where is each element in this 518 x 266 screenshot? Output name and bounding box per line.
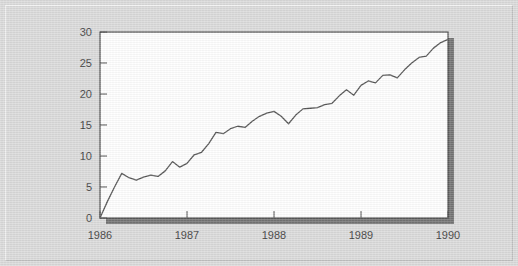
x-tick-label: 1989 xyxy=(349,229,373,241)
plot-background xyxy=(100,32,448,218)
y-tick-label: 15 xyxy=(80,119,92,131)
y-tick-label: 30 xyxy=(80,26,92,38)
x-axis-tick-labels: 19861987198819891990 xyxy=(88,229,460,241)
y-tick-label: 0 xyxy=(86,212,92,224)
y-tick-label: 25 xyxy=(80,57,92,69)
y-tick-label: 5 xyxy=(86,181,92,193)
x-tick-label: 1988 xyxy=(262,229,286,241)
y-axis-tick-labels: 051015202530 xyxy=(80,26,92,224)
y-tick-label: 20 xyxy=(80,88,92,100)
x-tick-label: 1987 xyxy=(175,229,199,241)
y-tick-label: 10 xyxy=(80,150,92,162)
line-chart: 051015202530 19861987198819891990 xyxy=(0,0,518,266)
x-tick-label: 1986 xyxy=(88,229,112,241)
chart-figure: 051015202530 19861987198819891990 xyxy=(0,0,518,266)
x-tick-label: 1990 xyxy=(436,229,460,241)
